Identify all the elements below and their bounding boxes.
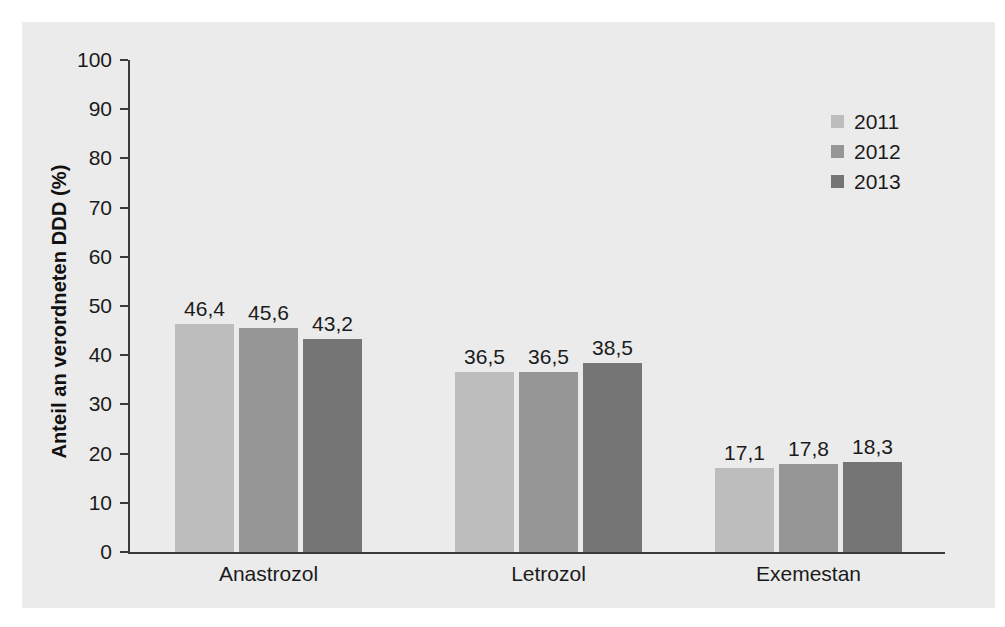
bar-group: 36,536,538,5	[455, 60, 642, 552]
x-axis-label-anastrozol: Anastrozol	[175, 563, 362, 584]
legend-swatch-icon	[831, 175, 844, 188]
bar-value-label: 38,5	[592, 337, 633, 358]
y-axis-tick	[120, 453, 128, 455]
bar-exemestan-2011[interactable]: 17,1	[715, 468, 774, 552]
bar-letrozol-2013[interactable]: 38,5	[583, 363, 642, 552]
bar-chart-figure: Anteil an verordneten DDD (%) 1009080706…	[0, 0, 1005, 627]
y-axis-tick-label: 70	[66, 197, 112, 218]
y-axis-tick-label: 80	[66, 147, 112, 168]
y-axis-tick	[120, 256, 128, 258]
y-axis-tick	[120, 551, 128, 553]
y-axis-line	[128, 60, 130, 554]
x-axis-label-letrozol: Letrozol	[455, 563, 642, 584]
y-axis-tick-label: 100	[66, 49, 112, 70]
y-axis-tick-label: 60	[66, 246, 112, 267]
legend-swatch-icon	[831, 145, 844, 158]
bar-slot: 17,1	[715, 60, 774, 552]
y-axis-tick	[120, 502, 128, 504]
y-axis-tick-label: 0	[66, 541, 112, 562]
legend-item-label: 2012	[854, 141, 901, 162]
bar-slot: 36,5	[519, 60, 578, 552]
y-axis-tick-label: 90	[66, 98, 112, 119]
bar-value-label: 18,3	[852, 436, 893, 457]
bar-value-label: 45,6	[248, 302, 289, 323]
bar-slot: 45,6	[239, 60, 298, 552]
legend-swatch-icon	[831, 115, 844, 128]
y-axis-tick	[120, 157, 128, 159]
y-axis-tick	[120, 354, 128, 356]
bar-value-label: 46,4	[184, 298, 225, 319]
y-axis-tick	[120, 108, 128, 110]
x-axis-line	[128, 552, 945, 554]
bar-exemestan-2012[interactable]: 17,8	[779, 464, 838, 552]
y-axis-tick	[120, 305, 128, 307]
bar-exemestan-2013[interactable]: 18,3	[843, 462, 902, 552]
bar-anastrozol-2013[interactable]: 43,2	[303, 339, 362, 552]
bar-value-label: 17,8	[788, 438, 829, 459]
bar-slot: 17,8	[779, 60, 838, 552]
bar-value-label: 43,2	[312, 313, 353, 334]
x-axis-label-exemestan: Exemestan	[715, 563, 902, 584]
legend-item-label: 2013	[854, 171, 901, 192]
y-axis-tick-label: 30	[66, 393, 112, 414]
bar-value-label: 36,5	[528, 346, 569, 367]
bar-anastrozol-2012[interactable]: 45,6	[239, 328, 298, 552]
chart-legend: 201120122013	[831, 106, 901, 196]
bar-slot: 46,4	[175, 60, 234, 552]
bar-slot: 36,5	[455, 60, 514, 552]
y-axis-tick-label: 20	[66, 443, 112, 464]
bar-letrozol-2012[interactable]: 36,5	[519, 372, 578, 552]
y-axis-tick-label: 10	[66, 492, 112, 513]
bar-anastrozol-2011[interactable]: 46,4	[175, 324, 234, 552]
bar-group: 46,445,643,2	[175, 60, 362, 552]
bar-value-label: 36,5	[464, 346, 505, 367]
legend-item-label: 2011	[854, 111, 899, 132]
bar-letrozol-2011[interactable]: 36,5	[455, 372, 514, 552]
bar-value-label: 17,1	[724, 442, 765, 463]
bar-slot: 43,2	[303, 60, 362, 552]
y-axis-tick	[120, 403, 128, 405]
legend-item-2011[interactable]: 2011	[831, 106, 901, 136]
y-axis-tick	[120, 207, 128, 209]
legend-item-2012[interactable]: 2012	[831, 136, 901, 166]
bar-slot: 38,5	[583, 60, 642, 552]
y-axis-tick	[120, 59, 128, 61]
y-axis-tick-label: 50	[66, 295, 112, 316]
legend-item-2013[interactable]: 2013	[831, 166, 901, 196]
y-axis-tick-label: 40	[66, 344, 112, 365]
